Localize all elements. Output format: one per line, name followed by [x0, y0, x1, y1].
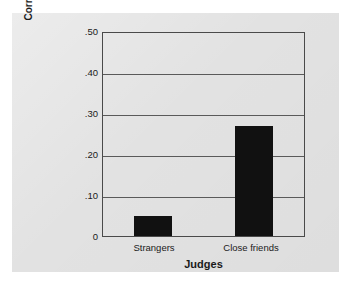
y-tick-label-30: .30: [64, 108, 98, 119]
bar-close-friends: [235, 126, 273, 236]
gridline-10: [103, 197, 304, 198]
y-axis-title-line-1: Correlation with students': [23, 0, 35, 20]
x-axis-title: Judges: [102, 258, 305, 270]
x-category-label-close-friends: Close friends: [209, 242, 293, 253]
y-axis-title: Correlation with students' own impressio…: [20, 0, 50, 62]
bar-strangers: [134, 216, 172, 236]
y-tick-label-10: .10: [64, 190, 98, 201]
y-tick-label-0: 0: [64, 231, 98, 242]
x-category-label-strangers: Strangers: [112, 242, 196, 253]
gridline-40: [103, 74, 304, 75]
y-axis-tick-labels: .50 .40 .30 .20 .10 0: [62, 32, 98, 237]
gridline-20: [103, 156, 304, 157]
y-tick-label-20: .20: [64, 149, 98, 160]
gridline-30: [103, 115, 304, 116]
plot-area: [102, 32, 305, 237]
y-tick-label-40: .40: [64, 67, 98, 78]
y-tick-label-50: .50: [64, 26, 98, 37]
